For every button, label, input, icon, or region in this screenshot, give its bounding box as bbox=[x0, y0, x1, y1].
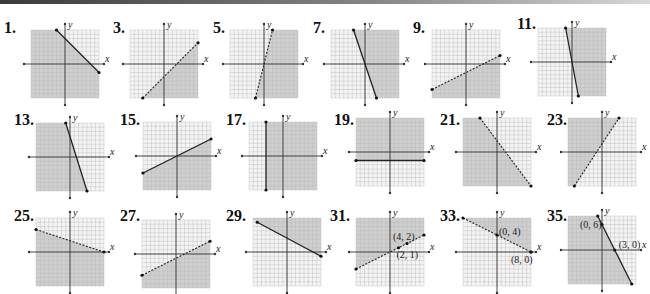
y-axis-arrow-top bbox=[69, 116, 71, 118]
line-arrowhead bbox=[498, 54, 501, 57]
x-axis-label: x bbox=[104, 53, 110, 64]
x-axis-arrow-left bbox=[348, 251, 350, 253]
y-axis-label: y bbox=[604, 205, 610, 216]
x-axis-arrow-left bbox=[323, 63, 325, 65]
problem-number: 3. bbox=[113, 20, 125, 36]
y-axis-arrow-top bbox=[69, 211, 71, 213]
x-axis-label: x bbox=[429, 241, 435, 252]
line-arrowhead bbox=[64, 121, 67, 124]
y-axis-arrow-bottom bbox=[601, 192, 603, 194]
line-arrowhead bbox=[141, 171, 144, 174]
y-axis-label: y bbox=[72, 207, 78, 218]
inequality-graph: xy bbox=[249, 122, 317, 190]
inequality-graph: xy bbox=[130, 30, 198, 98]
problem-number: 31. bbox=[330, 208, 350, 224]
x-axis-arrow-left bbox=[241, 155, 243, 157]
x-axis-label: x bbox=[641, 141, 647, 152]
x-axis-label: x bbox=[536, 141, 542, 152]
x-axis-arrow-left bbox=[455, 151, 457, 153]
y-axis-arrow-top bbox=[286, 211, 288, 213]
y-axis-arrow-top bbox=[263, 23, 265, 25]
y-axis-arrow-top bbox=[496, 211, 498, 213]
problem-number: 25. bbox=[14, 208, 34, 224]
inequality-graph: xy(4, 2)(2, 1) bbox=[356, 218, 424, 286]
line-arrowhead bbox=[319, 255, 322, 258]
y-axis-label: y bbox=[392, 107, 398, 118]
y-axis-arrow-bottom bbox=[176, 196, 178, 198]
x-axis-arrow-left bbox=[28, 156, 30, 158]
x-axis-label: x bbox=[611, 51, 617, 62]
point-label: (0, 6) bbox=[580, 219, 602, 231]
y-axis-label: y bbox=[285, 111, 291, 122]
y-axis-label: y bbox=[604, 107, 610, 118]
line-arrowhead bbox=[102, 250, 105, 253]
y-axis-label: y bbox=[367, 19, 373, 30]
y-axis-label: y bbox=[499, 207, 505, 218]
inequality-graph: xy bbox=[36, 123, 104, 191]
problem-number: 13. bbox=[14, 112, 34, 128]
inequality-graph: xy(0, 4)(8, 0) bbox=[463, 218, 531, 286]
x-axis-arrow-left bbox=[23, 63, 25, 65]
point-label: (4, 2) bbox=[393, 231, 415, 243]
x-axis-label: x bbox=[326, 241, 332, 252]
inequality-graph: xy bbox=[538, 28, 606, 96]
problem-number: 5. bbox=[213, 20, 225, 36]
line-arrowhead bbox=[97, 71, 100, 74]
line-arrowhead bbox=[254, 96, 257, 99]
line-arrowhead bbox=[140, 274, 143, 277]
inequality-graph: xy bbox=[143, 122, 211, 190]
y-axis-arrow-top bbox=[364, 23, 366, 25]
inequality-graph: xy(0, 6)(3, 0) bbox=[568, 216, 636, 284]
y-axis-arrow-bottom bbox=[163, 104, 165, 106]
x-axis-arrow-left bbox=[348, 151, 350, 153]
problem-number: 15. bbox=[120, 112, 140, 128]
y-axis-arrow-top bbox=[64, 23, 66, 25]
x-axis-label: x bbox=[505, 53, 511, 64]
y-axis-arrow-bottom bbox=[601, 290, 603, 292]
problem-number: 27. bbox=[120, 208, 140, 224]
y-axis-arrow-bottom bbox=[389, 192, 391, 194]
y-axis-arrow-top bbox=[163, 23, 165, 25]
line-arrowhead bbox=[617, 116, 620, 119]
x-axis-arrow-left bbox=[455, 251, 457, 253]
x-axis-arrow-left bbox=[134, 253, 136, 255]
line-arrowhead bbox=[596, 214, 599, 217]
inequality-graph: xy bbox=[253, 218, 321, 286]
line-arrowhead bbox=[375, 96, 378, 99]
line-arrowhead bbox=[34, 228, 37, 231]
line-arrowhead bbox=[352, 28, 355, 31]
line-arrowhead bbox=[141, 96, 144, 99]
line-arrowhead bbox=[196, 41, 199, 44]
y-axis-arrow-bottom bbox=[496, 192, 498, 194]
y-axis-arrow-top bbox=[175, 213, 177, 215]
y-axis-label: y bbox=[178, 209, 184, 220]
y-axis-arrow-bottom bbox=[69, 197, 71, 199]
section-header-bar bbox=[0, 0, 650, 4]
inequality-graph: xy bbox=[568, 118, 636, 186]
y-axis-arrow-bottom bbox=[282, 196, 284, 198]
inequality-graph: xy bbox=[31, 30, 99, 98]
x-axis-label: x bbox=[404, 53, 410, 64]
line-arrowhead bbox=[564, 26, 567, 29]
problem-number: 23. bbox=[547, 112, 567, 128]
problem-number: 17. bbox=[226, 112, 246, 128]
line-arrowhead bbox=[271, 28, 274, 31]
y-axis-arrow-bottom bbox=[465, 104, 467, 106]
x-axis-arrow-left bbox=[28, 251, 30, 253]
line-arrowhead bbox=[461, 216, 464, 219]
x-axis-arrow-left bbox=[222, 63, 224, 65]
y-axis-arrow-top bbox=[465, 23, 467, 25]
line-arrowhead bbox=[422, 233, 425, 236]
problem-number: 21. bbox=[440, 112, 460, 128]
line-arrowhead bbox=[55, 28, 58, 31]
line-arrowhead bbox=[264, 120, 267, 123]
line-arrowhead bbox=[573, 184, 576, 187]
y-axis-label: y bbox=[266, 19, 272, 30]
inequality-graph: xy bbox=[463, 118, 531, 186]
y-axis-label: y bbox=[574, 17, 580, 28]
y-axis-arrow-top bbox=[601, 111, 603, 113]
x-axis-label: x bbox=[429, 141, 435, 152]
labeled-point bbox=[613, 248, 616, 251]
x-axis-arrow-left bbox=[245, 251, 247, 253]
problem-number: 1. bbox=[4, 20, 16, 36]
